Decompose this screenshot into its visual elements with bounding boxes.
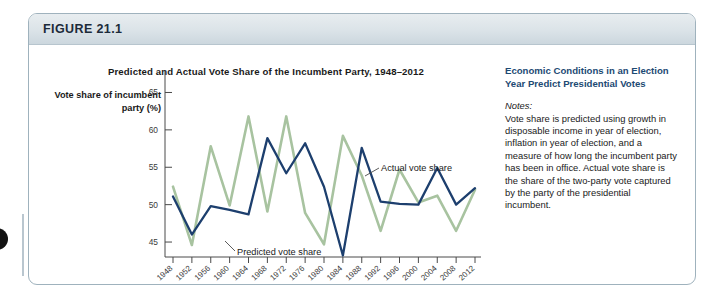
x-tick-label: 1952: [174, 263, 194, 282]
x-tick-label: 1988: [344, 263, 364, 282]
x-tick-label: 1992: [363, 263, 383, 282]
x-tick-label: 2012: [457, 263, 477, 282]
x-tick-label: 1976: [287, 263, 307, 282]
x-tick-label: 1956: [193, 263, 213, 282]
figure-header-bar: FIGURE 21.1: [29, 14, 695, 45]
figure-container: FIGURE 21.1 Predicted and Actual Vote Sh…: [28, 13, 696, 285]
y-tick-label: 60: [149, 125, 159, 135]
x-tick-label: 2004: [419, 263, 439, 282]
predicted-annotation-label: Predicted vote share: [237, 247, 321, 257]
figure-body: Predicted and Actual Vote Share of the I…: [29, 45, 695, 284]
side-note-column: Economic Conditions in an Election Year …: [501, 45, 687, 284]
y-tick-label: 55: [149, 162, 159, 172]
x-tick-label: 1984: [325, 263, 345, 282]
x-tick-label: 2000: [400, 263, 420, 282]
x-tick-label: 1964: [231, 263, 251, 282]
x-tick-label: 1948: [155, 263, 175, 282]
x-tick-label: 1972: [268, 263, 288, 282]
y-tick-label: 45: [149, 237, 159, 247]
x-tick-label: 1996: [382, 263, 402, 282]
notes-label: Notes:: [505, 100, 677, 112]
actual-annotation-label: Actual vote share: [381, 163, 452, 173]
predicted-annotation-leader: [225, 241, 235, 251]
y-tick-label: 50: [149, 200, 159, 210]
notes-body: Vote share is predicted using growth in …: [505, 113, 677, 212]
chart-plot: 4550556065194819521956196019641968197219…: [29, 45, 497, 284]
x-tick-label: 1980: [306, 263, 326, 282]
chart-area: Predicted and Actual Vote Share of the I…: [29, 45, 497, 284]
figure-number-label: FIGURE 21.1: [43, 22, 122, 36]
side-note-heading: Economic Conditions in an Election Year …: [505, 65, 677, 90]
page-margin-rule: [22, 214, 24, 276]
x-tick-label: 1968: [249, 263, 269, 282]
x-tick-label: 2008: [438, 263, 458, 282]
y-tick-label: 65: [149, 87, 159, 97]
x-tick-label: 1960: [212, 263, 232, 282]
page-edge-artifact: [0, 228, 8, 250]
